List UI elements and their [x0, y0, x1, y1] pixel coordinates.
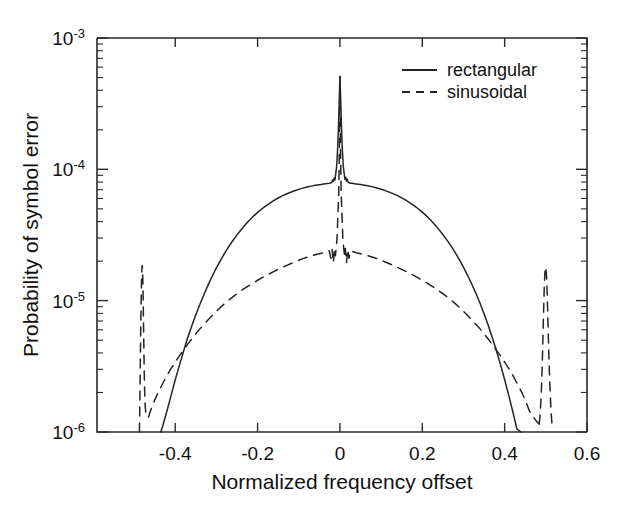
x-tick-label-4: 0.4 — [491, 443, 518, 464]
y-tick-label-2: 10-5 — [52, 289, 85, 312]
x-tick-label-1: -0.2 — [241, 443, 274, 464]
y-tick-label-3: 10-6 — [52, 420, 85, 443]
data-series-group — [139, 76, 552, 432]
legend: rectangular sinusoidal — [402, 60, 537, 102]
x-tick-label-3: 0.2 — [409, 443, 435, 464]
probability-of-symbol-error-chart: 10-3 10-4 10-5 10-6 -0.4-0.200.20.40.6 N… — [0, 0, 625, 521]
legend-label-sinusoidal: sinusoidal — [447, 82, 527, 102]
y-tick-label-0: 10-3 — [52, 26, 85, 49]
series-right-spike — [539, 267, 552, 429]
x-tick-label-2: 0 — [335, 443, 346, 464]
y-tick-labels: 10-3 10-4 10-5 10-6 — [52, 26, 85, 443]
x-tick-label-5: 0.6 — [574, 443, 600, 464]
y-tick-label-1: 10-4 — [52, 157, 85, 180]
y-axis-title: Probability of symbol error — [19, 113, 42, 357]
x-tick-label-0: -0.4 — [159, 443, 192, 464]
legend-label-rectangular: rectangular — [447, 60, 537, 80]
figure-container: 10-3 10-4 10-5 10-6 -0.4-0.200.20.40.6 N… — [0, 0, 625, 521]
x-tick-labels: -0.4-0.200.20.40.6 — [159, 443, 600, 464]
series-rectangular — [161, 76, 521, 432]
x-axis-title: Normalized frequency offset — [211, 470, 472, 493]
series-sinusoidal — [148, 76, 539, 424]
series-left-spike — [139, 266, 146, 432]
